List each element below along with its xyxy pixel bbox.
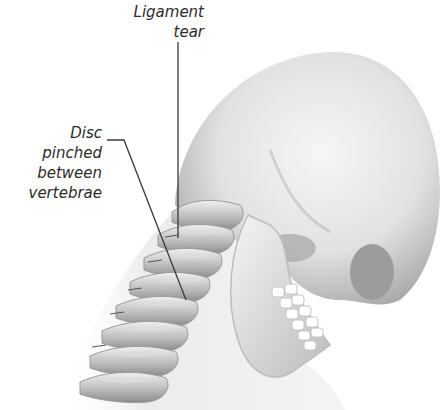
ligament-tear-label: Ligament tear [96,2,204,42]
whiplash-illustration: Ligament tear Disc pinched between verte… [0,0,443,410]
eye-socket [350,244,394,300]
disc-pinched-label: Disc pinched between vertebrae [10,123,102,203]
label-line: Disc [10,123,102,143]
label-line: vertebrae [10,183,102,203]
label-line: tear [96,22,204,42]
label-line: Ligament [96,2,204,22]
label-line: pinched [10,143,102,163]
skull-spine-drawing [0,0,443,410]
label-line: between [10,163,102,183]
